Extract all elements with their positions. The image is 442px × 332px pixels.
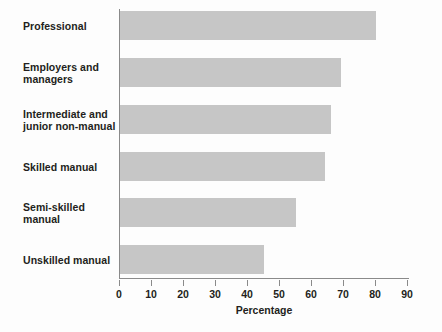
x-tick <box>215 280 216 286</box>
x-tick <box>119 280 120 286</box>
x-tick-label: 60 <box>296 288 326 300</box>
category-label-text-line2: managers <box>23 73 73 85</box>
x-tick <box>279 280 280 286</box>
bar <box>120 105 331 134</box>
category-label-skilled-manual: Skilled manual <box>23 161 118 173</box>
bar <box>120 245 264 274</box>
plot-area: 0102030405060708090 Percentage <box>119 0 419 279</box>
x-tick <box>407 280 408 286</box>
x-tick-label: 70 <box>328 288 358 300</box>
category-label-text-line2: manual <box>23 213 60 225</box>
category-label-unskilled-manual: Unskilled manual <box>23 254 118 266</box>
x-tick <box>343 280 344 286</box>
x-tick <box>247 280 248 286</box>
bar <box>120 58 341 87</box>
x-tick-label: 10 <box>136 288 166 300</box>
x-tick-label: 90 <box>392 288 422 300</box>
x-tick-label: 50 <box>264 288 294 300</box>
category-label-text-line2: junior non-manual <box>23 120 115 132</box>
category-label-text: Professional <box>23 20 87 32</box>
category-label-text: Skilled manual <box>23 161 97 173</box>
bar <box>120 198 296 227</box>
x-tick-label: 0 <box>104 288 134 300</box>
y-axis-line <box>119 9 120 279</box>
category-label-text: Unskilled manual <box>23 254 110 266</box>
x-axis-line <box>119 278 409 279</box>
x-tick <box>311 280 312 286</box>
x-tick <box>375 280 376 286</box>
bar <box>120 152 325 181</box>
x-tick <box>183 280 184 286</box>
category-label-intermediate-and-junior-non-manual: Intermediate and junior non-manual <box>23 108 118 132</box>
x-tick-label: 30 <box>200 288 230 300</box>
x-tick-label: 20 <box>168 288 198 300</box>
category-label-text-line1: Intermediate and <box>23 108 108 120</box>
bar <box>120 11 376 40</box>
category-label-employers-and-managers: Employers and managers <box>23 61 118 85</box>
category-label-text-line1: Semi-skilled <box>23 201 85 213</box>
x-tick <box>151 280 152 286</box>
x-tick-label: 80 <box>360 288 390 300</box>
category-label-semi-skilled-manual: Semi-skilled manual <box>23 201 118 225</box>
x-axis-title: Percentage <box>119 304 409 316</box>
category-label-professional: Professional <box>23 20 118 32</box>
bar-chart: Professional Employers and managers Inte… <box>0 0 442 332</box>
category-label-text-line1: Employers and <box>23 61 99 73</box>
x-tick-label: 40 <box>232 288 262 300</box>
